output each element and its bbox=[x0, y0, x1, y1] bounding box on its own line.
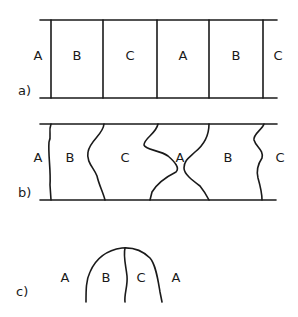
interface-curve bbox=[49, 124, 51, 200]
interface-curve bbox=[144, 124, 177, 200]
phase-label: B bbox=[102, 270, 111, 285]
panel-a: A B C A B C a) bbox=[18, 20, 283, 98]
panel-label: c) bbox=[16, 284, 28, 299]
panel-label: b) bbox=[18, 185, 31, 200]
phase-label: A bbox=[179, 48, 188, 63]
phase-label: A bbox=[34, 150, 43, 165]
phase-label: A bbox=[34, 48, 43, 63]
phase-label: C bbox=[125, 48, 134, 63]
panel-b: A B C A B C b) bbox=[18, 124, 285, 200]
interface-curve bbox=[88, 124, 105, 200]
phase-label: C bbox=[120, 150, 129, 165]
phase-label: C bbox=[136, 270, 145, 285]
phase-label: B bbox=[224, 150, 233, 165]
phase-label: A bbox=[176, 150, 185, 165]
interface-curve bbox=[254, 124, 264, 200]
phase-label: C bbox=[273, 48, 282, 63]
interface-curve bbox=[184, 124, 209, 200]
diagram: A B C A B C a) A B C A B C b) A B C A c) bbox=[0, 0, 298, 317]
phase-label: A bbox=[61, 270, 70, 285]
panel-label: a) bbox=[18, 83, 31, 98]
phase-label: C bbox=[275, 150, 284, 165]
panel-c: A B C A c) bbox=[16, 248, 181, 302]
interface-line bbox=[124, 248, 127, 302]
phase-label: A bbox=[172, 270, 181, 285]
phase-label: B bbox=[66, 150, 75, 165]
phase-label: B bbox=[232, 48, 241, 63]
phase-label: B bbox=[73, 48, 82, 63]
